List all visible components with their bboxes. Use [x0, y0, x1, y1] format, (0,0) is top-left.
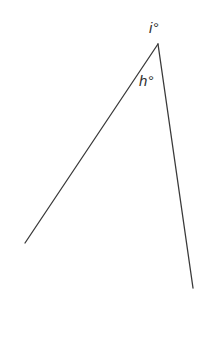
right-ray-line — [158, 44, 193, 288]
geometry-canvas — [0, 0, 208, 338]
interior-angle-label-h: h° — [139, 73, 154, 88]
exterior-angle-label-i: i° — [149, 20, 159, 35]
geometry-figure: i° h° — [0, 0, 208, 338]
